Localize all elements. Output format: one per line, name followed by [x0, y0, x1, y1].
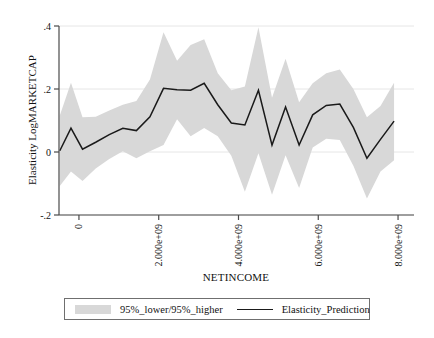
x-tick-label: 6.000e+09 [313, 224, 324, 267]
x-axis-ticks: 02.000e+094.000e+096.000e+098.000e+09 [73, 215, 403, 267]
y-tick-label: .2 [44, 84, 52, 95]
y-axis-ticks: -.20.2.4 [40, 21, 59, 221]
chart-svg: -.20.2.4 02.000e+094.000e+096.000e+098.0… [0, 0, 434, 338]
legend-entry-prediction: Elasticity_Prediction [223, 299, 370, 319]
legend-label-prediction: Elasticity_Prediction [282, 304, 370, 315]
chart-legend: 95%_lower/95%_higher Elasticity_Predicti… [64, 298, 370, 320]
y-tick-label: -.2 [40, 210, 51, 221]
legend-entry-ci: 95%_lower/95%_higher [65, 299, 223, 319]
legend-label-ci: 95%_lower/95%_higher [120, 304, 223, 315]
x-axis-title: NETINCOME [203, 271, 270, 283]
x-tick-label: 0 [73, 224, 84, 229]
legend-band-swatch-icon [75, 305, 111, 314]
y-tick-label: 0 [46, 147, 51, 158]
y-tick-label: .4 [44, 21, 52, 32]
y-axis-title: Elasticity LogMARKETCAP [26, 55, 38, 185]
x-tick-label: 4.000e+09 [233, 224, 244, 267]
figure-canvas: -.20.2.4 02.000e+094.000e+096.000e+098.0… [0, 0, 434, 338]
legend-line-swatch-icon [237, 309, 273, 310]
x-tick-label: 8.000e+09 [393, 224, 404, 267]
x-tick-label: 2.000e+09 [153, 224, 164, 267]
